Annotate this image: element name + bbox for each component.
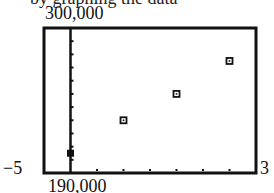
x-tick [149,169,151,171]
plot-frame [44,28,256,173]
scatter-plot [0,0,274,193]
x-tick [255,169,257,171]
x-tick [96,169,98,171]
data-point-center [229,60,231,62]
x-tick [202,169,204,171]
x-tick [229,169,231,171]
data-point-center [123,119,125,121]
x-tick [123,169,125,171]
data-point [67,150,74,157]
data-point-center [176,93,178,95]
x-tick [176,169,178,171]
